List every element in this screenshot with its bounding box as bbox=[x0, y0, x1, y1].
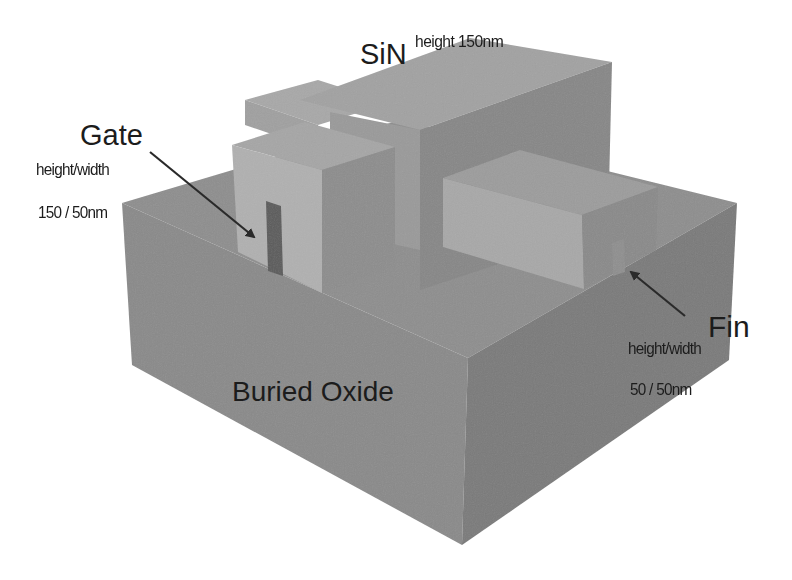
gate-title: Gate bbox=[80, 119, 143, 151]
gate-dim-label-2: 150 / 50nm bbox=[38, 204, 107, 221]
buried-oxide-title: Buried Oxide bbox=[232, 376, 394, 407]
gate-contact bbox=[266, 201, 283, 276]
fin-dim-label-1: height/width bbox=[628, 340, 701, 357]
sin-height-label: height 150nm bbox=[415, 33, 503, 50]
gate-dim-text-2: 150 / 50nm bbox=[38, 203, 107, 222]
finfet-diagram bbox=[0, 0, 792, 580]
fin-dim-text-1: height/width bbox=[628, 339, 701, 358]
gate-label: Gate bbox=[80, 121, 143, 150]
fin-dim-text-2: 50 / 50nm bbox=[630, 380, 692, 399]
gate-dim-text-1: height/width bbox=[36, 160, 109, 179]
sin-label: SiN bbox=[360, 40, 407, 69]
fin-label: Fin bbox=[708, 312, 750, 342]
buried-oxide-label: Buried Oxide bbox=[232, 378, 394, 406]
fin-dim-label-2: 50 / 50nm bbox=[630, 381, 692, 398]
gate-dim-label-1: height/width bbox=[36, 161, 109, 178]
fin-title: Fin bbox=[708, 310, 750, 343]
fin bbox=[612, 239, 625, 276]
sin-height-text: height 150nm bbox=[415, 32, 503, 51]
sin-title: SiN bbox=[360, 38, 407, 70]
